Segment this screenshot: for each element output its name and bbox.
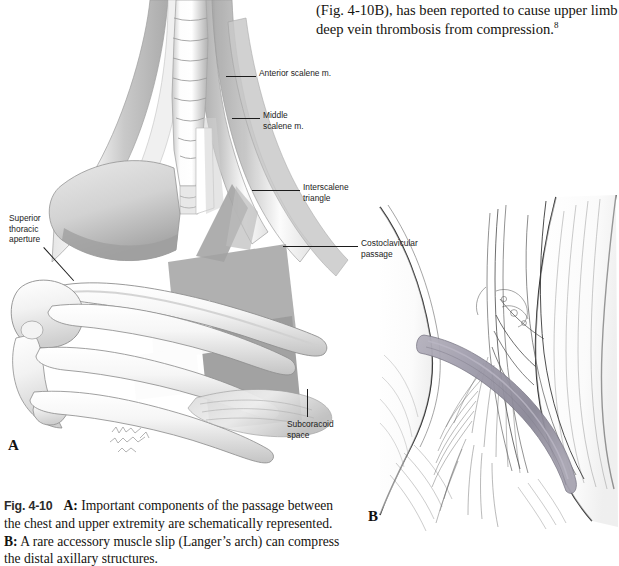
body-line-2: deep vein thrombosis from compression.8 xyxy=(316,20,616,39)
fascia-strokes xyxy=(390,445,566,531)
cervical-spine xyxy=(172,0,208,214)
langers-arch-muscle-slip xyxy=(417,335,577,493)
label-interscalene-triangle: Interscalene triangle xyxy=(303,182,349,203)
figure-number: Fig. 4-10 xyxy=(4,499,52,513)
leader-line-subcoracoid-space xyxy=(307,389,308,417)
caption-part-a-label: A: xyxy=(63,498,77,513)
body-paragraph: (Fig. 4-10B), has been reported to cause… xyxy=(316,1,616,39)
leader-line-interscalene-triangle xyxy=(252,190,300,191)
interscalene-triangle-region xyxy=(196,128,214,214)
accessory-muscle-band-upper xyxy=(526,201,584,479)
leader-line-superior-thoracic-aperture xyxy=(43,247,74,281)
clavicle xyxy=(56,283,327,356)
vascular-plexus-detail xyxy=(432,357,520,527)
label-middle-scalene-muscle: Middle scalene m. xyxy=(263,110,304,131)
panel-letter-b: B xyxy=(368,508,378,525)
scalene-muscle-group xyxy=(52,0,348,276)
label-superior-thoracic-aperture: Superior thoracic aperture xyxy=(9,213,41,245)
neurovascular-bundle xyxy=(487,205,544,473)
pleural-dome xyxy=(49,161,180,261)
caption-part-b-text: A rare accessory muscle slip (Langer’s a… xyxy=(4,534,339,566)
rib-cage xyxy=(30,304,295,463)
caption-part-b-label: B: xyxy=(4,534,18,549)
leader-line-middle-scalene xyxy=(232,118,260,119)
panel-letter-a: A xyxy=(8,437,19,454)
label-subcoracoid-space: Subcoracoid space xyxy=(287,419,334,440)
scapula xyxy=(11,280,83,428)
figure-caption: Fig. 4-10A: Important components of the … xyxy=(4,497,349,566)
subcoracoid-space-region xyxy=(200,316,302,430)
body-line-1: (Fig. 4-10B), has been reported to cause… xyxy=(316,1,616,20)
caption-part-a-text: Important components of the passage betw… xyxy=(4,498,333,531)
vessel-loops xyxy=(476,287,528,327)
leader-line-anterior-scalene xyxy=(226,76,256,77)
leader-line-costoclavicular-passage xyxy=(283,246,358,247)
body-line-2-text: deep vein thrombosis from compression. xyxy=(316,21,554,37)
label-costoclavicular-passage: Costoclavicular passage xyxy=(361,238,418,259)
latissimus-dorsi-belly xyxy=(536,195,618,527)
passage-shading xyxy=(132,118,302,430)
label-anterior-scalene-muscle: Anterior scalene m. xyxy=(259,68,331,79)
footnote-marker: 8 xyxy=(554,20,559,30)
artist-signature xyxy=(110,427,149,452)
costoclavicular-passage-region xyxy=(196,184,248,262)
